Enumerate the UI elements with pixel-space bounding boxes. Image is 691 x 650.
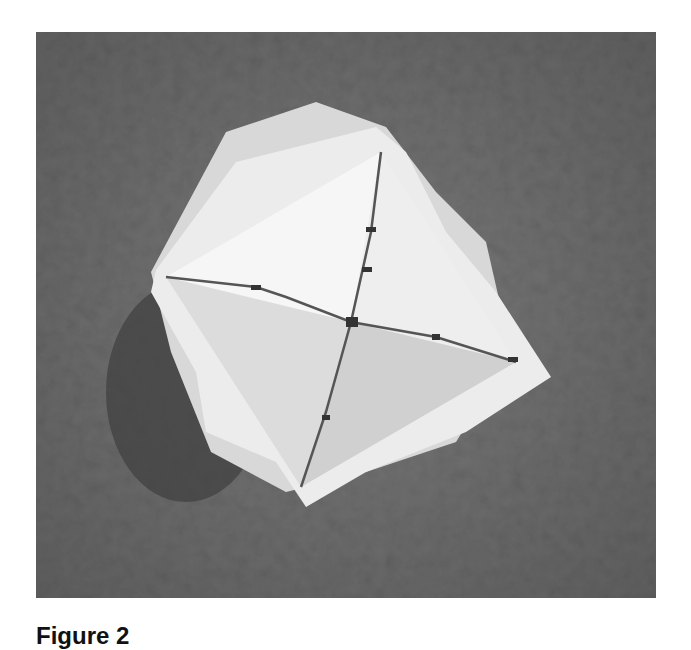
paper-polyhedron-image — [36, 32, 656, 598]
figure-caption: Figure 2 — [36, 622, 129, 650]
figure-photo — [36, 32, 656, 598]
